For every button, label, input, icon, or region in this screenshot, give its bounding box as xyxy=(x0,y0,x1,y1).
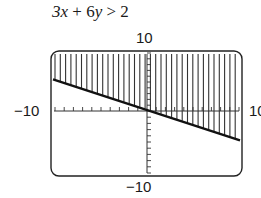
graph-plot xyxy=(0,0,261,198)
